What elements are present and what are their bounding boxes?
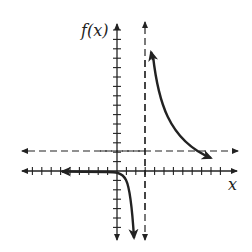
left-branch-curve-tail [62,172,106,173]
left-branch-curve [106,172,134,238]
right-branch-curve [153,56,211,158]
x-axis-ticks [32,167,220,175]
y-axis-label: f(x) [80,21,108,40]
right-branch-curve-top [151,52,153,60]
x-axis-label: x [228,175,237,194]
x-axis [22,167,237,175]
y-axis [113,24,121,240]
rational-function-graph: f(x) x [0,0,252,252]
